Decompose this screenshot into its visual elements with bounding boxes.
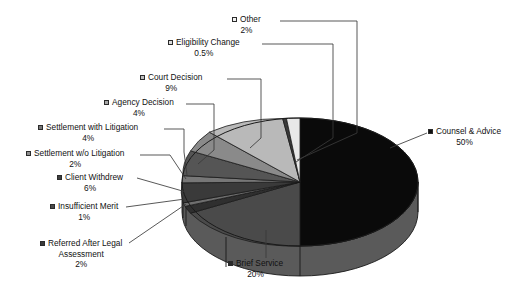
label-counsel-advice-name: Counsel & Advice xyxy=(436,126,501,137)
label-insufficient-merit-value: 1% xyxy=(50,212,118,223)
label-brief-service-name: Brief Service xyxy=(236,258,283,269)
marker-brief-service-icon xyxy=(228,261,233,266)
leader-referred-after-legal xyxy=(129,204,186,243)
label-settlement-wo-litigation-value: 2% xyxy=(26,159,124,170)
leader-counsel-advice xyxy=(390,133,427,148)
marker-settlement-wo-litigation-icon xyxy=(26,151,31,156)
label-eligibility-change: Eligibility Change 0.5% xyxy=(168,37,240,58)
label-referred-after-legal-name2: Assessment xyxy=(40,249,122,260)
label-insufficient-merit: Insufficient Merit 1% xyxy=(50,201,118,222)
label-client-withdrew-name: Client Withdrew xyxy=(65,172,123,183)
label-settlement-wo-litigation: Settlement w/o Litigation 2% xyxy=(26,148,124,169)
pie-top-face xyxy=(181,118,418,246)
leader-insufficient-merit xyxy=(126,199,185,207)
label-eligibility-change-value: 0.5% xyxy=(168,48,240,59)
label-referred-after-legal-value: 2% xyxy=(40,259,122,270)
label-brief-service: Brief Service 20% xyxy=(228,258,283,279)
label-eligibility-change-name: Eligibility Change xyxy=(176,37,240,48)
marker-client-withdrew-icon xyxy=(57,175,62,180)
label-agency-decision-value: 4% xyxy=(104,108,174,119)
label-settlement-with-litigation-name: Settlement with Litigation xyxy=(46,122,138,133)
label-other-name: Other xyxy=(240,14,261,25)
marker-agency-decision-icon xyxy=(104,100,109,105)
leader-settlement-wo-litigation xyxy=(140,155,186,179)
label-referred-after-legal: Referred After Legal Assessment 2% xyxy=(40,238,122,270)
label-brief-service-value: 20% xyxy=(228,269,283,280)
marker-insufficient-merit-icon xyxy=(50,204,55,209)
label-court-decision-value: 9% xyxy=(140,83,202,94)
marker-counsel-advice-icon xyxy=(428,129,433,134)
leader-client-withdrew xyxy=(137,178,186,192)
marker-court-decision-icon xyxy=(140,75,145,80)
marker-eligibility-change-icon xyxy=(168,40,173,45)
label-other: Other 2% xyxy=(232,14,261,35)
label-counsel-advice: Counsel & Advice 50% xyxy=(428,126,501,147)
label-other-value: 2% xyxy=(232,25,261,36)
pie-chart-figure: Other 2% Eligibility Change 0.5% Court D… xyxy=(0,0,532,296)
label-counsel-advice-value: 50% xyxy=(428,137,501,148)
label-settlement-with-litigation: Settlement with Litigation 4% xyxy=(38,122,138,143)
label-settlement-wo-litigation-name: Settlement w/o Litigation xyxy=(34,148,124,159)
label-client-withdrew: Client Withdrew 6% xyxy=(57,172,123,193)
label-client-withdrew-value: 6% xyxy=(57,183,123,194)
label-settlement-with-litigation-value: 4% xyxy=(38,133,138,144)
label-referred-after-legal-name: Referred After Legal xyxy=(48,238,122,249)
label-court-decision: Court Decision 9% xyxy=(140,72,202,93)
label-agency-decision: Agency Decision 4% xyxy=(104,97,174,118)
label-insufficient-merit-name: Insufficient Merit xyxy=(58,201,118,212)
marker-other-icon xyxy=(232,17,237,22)
marker-settlement-with-litigation-icon xyxy=(38,125,43,130)
label-court-decision-name: Court Decision xyxy=(148,72,202,83)
label-agency-decision-name: Agency Decision xyxy=(112,97,174,108)
marker-referred-after-legal-icon xyxy=(40,241,45,246)
